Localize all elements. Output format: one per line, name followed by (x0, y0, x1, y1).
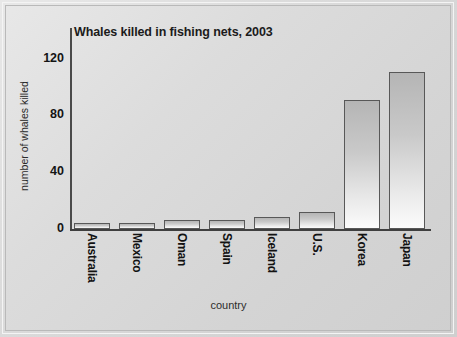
x-tick-label-australia: Australia (72, 233, 112, 291)
x-axis-title: country (0, 299, 457, 311)
bar-korea[interactable] (344, 100, 380, 229)
x-tick-label-oman: Oman (162, 233, 202, 291)
bar-iceland[interactable] (254, 217, 290, 229)
x-tick-label-iceland: Iceland (252, 233, 292, 291)
x-tick-text-japan: Japan (400, 233, 414, 267)
x-tick-label-us: U.S. (297, 233, 337, 291)
bar-australia[interactable] (74, 223, 110, 229)
y-tick-label-80: 80 (18, 107, 64, 121)
x-axis-line (70, 229, 431, 231)
y-axis-tick-labels: 120 80 40 0 (18, 0, 64, 337)
x-tick-label-spain: Spain (207, 233, 247, 291)
x-tick-text-us: U.S. (310, 233, 324, 256)
bar-chart-figure: Whales killed in fishing nets, 2003 numb… (0, 0, 457, 337)
x-tick-text-iceland: Iceland (265, 233, 279, 273)
x-tick-text-spain: Spain (220, 233, 234, 265)
bar-japan[interactable] (389, 72, 425, 229)
x-tick-text-oman: Oman (175, 233, 189, 266)
x-tick-text-mexico: Mexico (130, 233, 144, 272)
x-axis-tick-labels: Australia Mexico Oman Spain Iceland U.S.… (72, 233, 431, 295)
plot-area (72, 28, 431, 229)
x-tick-text-korea: Korea (355, 233, 369, 266)
bar-oman[interactable] (164, 220, 200, 229)
x-tick-label-mexico: Mexico (117, 233, 157, 291)
y-tick-label-120: 120 (18, 51, 64, 65)
bar-us[interactable] (299, 212, 335, 229)
y-tick-label-0: 0 (18, 221, 64, 235)
x-tick-label-japan: Japan (387, 233, 427, 291)
bar-mexico[interactable] (119, 223, 155, 229)
x-tick-label-korea: Korea (342, 233, 382, 291)
y-tick-label-40: 40 (18, 164, 64, 178)
bar-spain[interactable] (209, 220, 245, 229)
x-tick-text-australia: Australia (85, 233, 99, 283)
